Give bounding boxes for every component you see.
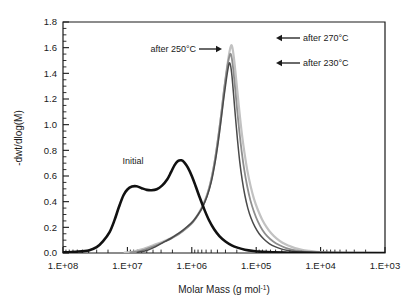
x-axis-title-group: Molar Mass (g mol-1) [178,284,269,296]
y-tick-label: 0.4 [44,196,57,207]
annotation-label: after 270°C [303,33,349,43]
x-axis-tick-labels: 1.E+081.E+071.E+061.E+051.E+041.E+03 [48,260,400,271]
annotation-initial: Initial [122,156,143,166]
data-series-layer [63,45,385,253]
annotation-after-230-c: after 230°C [276,58,349,68]
x-axis-title: Molar Mass (g mol-1) [178,284,269,296]
annotation-label: Initial [122,156,143,166]
y-axis-tick-labels: 0.00.20.40.60.81.01.21.41.61.8 [44,16,57,258]
chart-figure: 1.E+081.E+071.E+061.E+051.E+041.E+03 0.0… [0,0,413,306]
arrow-left-head-icon [276,60,282,66]
y-tick-label: 1.4 [44,68,57,79]
y-axis-title-group: -dwt/dlog(M) [13,110,24,166]
arrow-left-head-icon [276,35,282,41]
y-tick-label: 0.8 [44,145,57,156]
annotation-label: after 250°C [150,44,196,54]
x-axis-title-tail: ) [266,284,269,295]
series-line-initial [63,160,385,253]
x-tick-label: 1.E+05 [241,260,271,271]
x-tick-label: 1.E+07 [112,260,142,271]
series-line-after-230-c [137,63,385,253]
series-line-after-270-c [125,45,385,253]
y-tick-label: 0.6 [44,170,57,181]
arrow-right-head-icon [216,46,222,52]
y-tick-label: 0.2 [44,222,57,233]
y-axis-title: -dwt/dlog(M) [13,110,24,166]
x-axis-title-base: Molar Mass (g mol [178,284,260,295]
y-tick-label: 1.0 [44,119,57,130]
annotation-label: after 230°C [303,58,349,68]
series-line-after-250-c [130,54,385,253]
x-tick-label: 1.E+03 [370,260,400,271]
x-tick-label: 1.E+06 [177,260,207,271]
y-tick-label: 1.2 [44,93,57,104]
axis-frame [63,22,385,253]
y-tick-label: 1.8 [44,16,57,27]
y-tick-label: 0.0 [44,247,57,258]
molar-mass-distribution-chart: 1.E+081.E+071.E+061.E+051.E+041.E+03 0.0… [0,0,413,306]
x-tick-label: 1.E+04 [305,260,335,271]
x-tick-label: 1.E+08 [48,260,78,271]
annotation-after-270-c: after 270°C [276,33,349,43]
plot-border [63,22,385,253]
y-tick-label: 1.6 [44,42,57,53]
annotation-after-250-c: after 250°C [150,44,222,54]
